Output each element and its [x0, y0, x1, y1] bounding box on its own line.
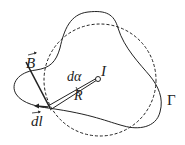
dl-arrowhead	[34, 104, 39, 109]
diagram-canvas	[0, 0, 185, 145]
label-current: I	[101, 64, 106, 79]
label-d-alpha: dα	[67, 70, 81, 84]
contour-gamma	[14, 12, 161, 128]
label-contour: Γ	[167, 93, 176, 108]
current-marker	[96, 77, 101, 82]
label-b: B	[26, 56, 35, 71]
label-dl: dl	[31, 114, 43, 129]
label-radius: R	[74, 89, 83, 103]
